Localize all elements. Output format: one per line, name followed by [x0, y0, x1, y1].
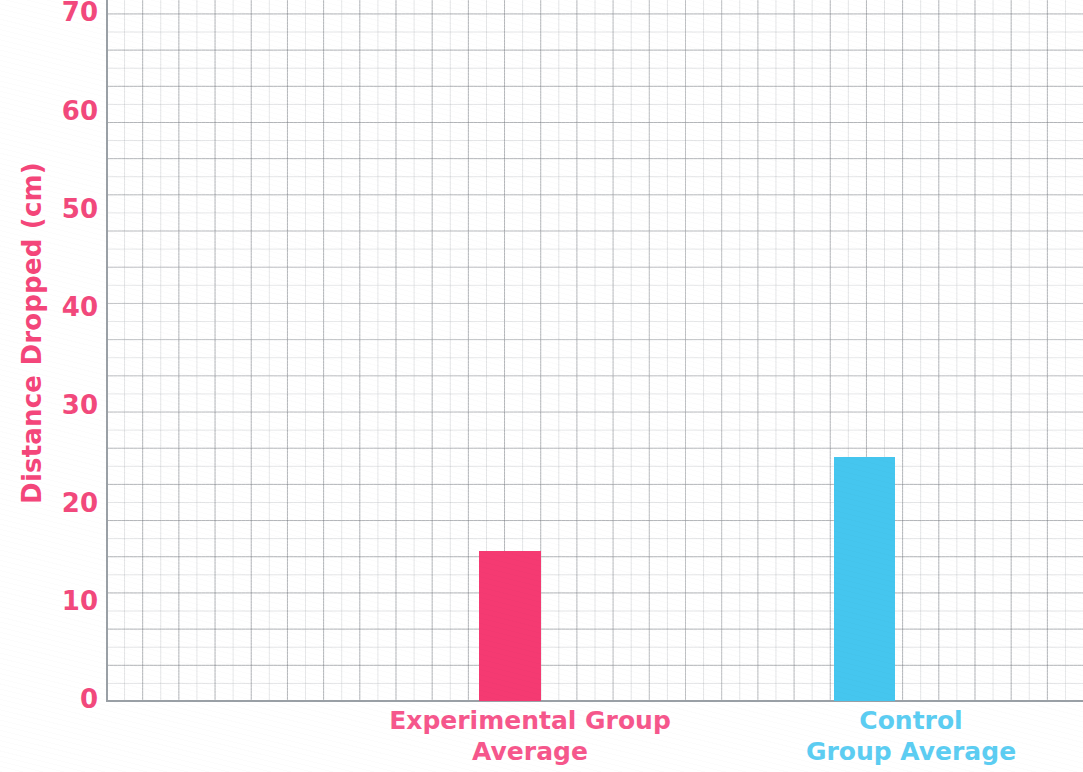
y-tick-label-60: 60 — [12, 96, 98, 126]
x-axis-line — [106, 700, 1083, 702]
bar-control-group-average — [834, 457, 895, 701]
plot-area — [106, 0, 1083, 702]
y-tick-label-20: 20 — [12, 488, 98, 518]
bar-chart-figure: Dropped Distance of Experimental Group v… — [0, 0, 1083, 772]
y-tick-label-70: 70 — [12, 0, 98, 27]
y-tick-label-0: 0 — [12, 684, 98, 714]
y-tick-label-40: 40 — [12, 292, 98, 322]
grid-texture — [106, 0, 1083, 702]
bar-experimental-group-average — [479, 551, 541, 701]
x-tick-label-control-group: Control Group Average — [740, 706, 1082, 767]
y-tick-label-50: 50 — [12, 194, 98, 224]
y-axis-tick-labels: 70 60 50 40 30 20 10 0 — [0, 0, 98, 772]
y-tick-label-10: 10 — [12, 586, 98, 616]
y-tick-label-30: 30 — [12, 390, 98, 420]
x-tick-label-experimental-group: Experimental Group Average — [330, 706, 730, 767]
y-axis-line — [106, 0, 108, 702]
